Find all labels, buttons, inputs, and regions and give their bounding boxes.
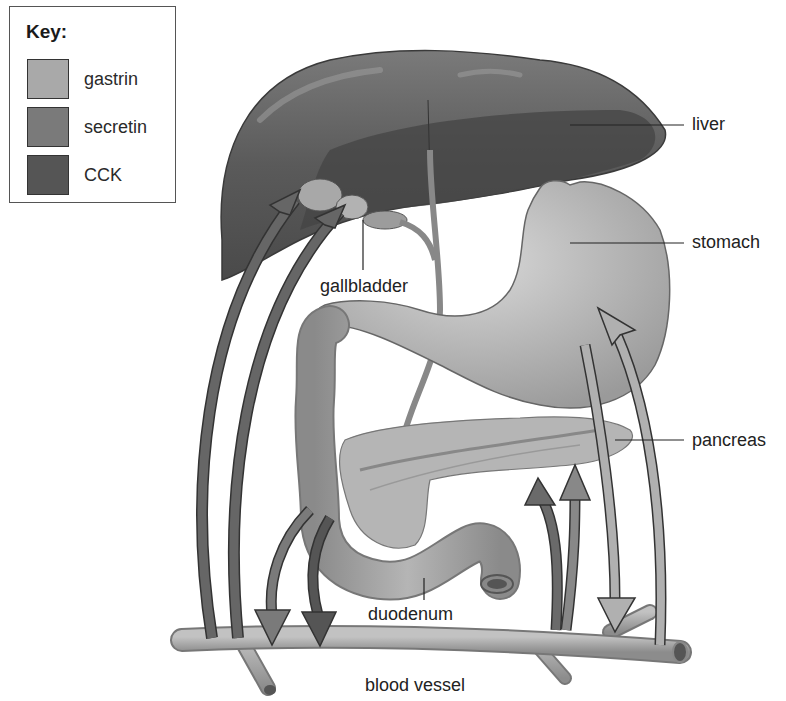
label-liver: liver <box>692 114 725 135</box>
label-pancreas: pancreas <box>692 430 766 451</box>
label-blood-vessel: blood vessel <box>365 675 465 696</box>
label-stomach: stomach <box>692 232 760 253</box>
label-gallbladder: gallbladder <box>320 276 408 297</box>
digestive-diagram <box>0 0 786 701</box>
label-duodenum: duodenum <box>368 604 453 625</box>
